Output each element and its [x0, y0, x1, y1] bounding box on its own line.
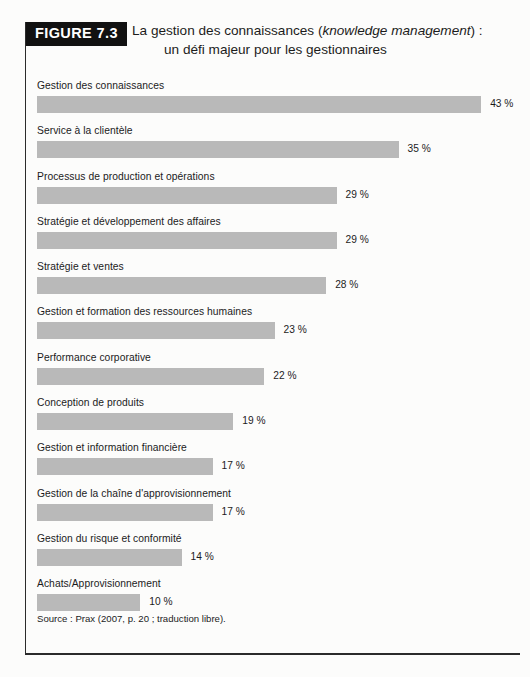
- bar: [37, 187, 337, 204]
- bar-value-label: 17 %: [222, 460, 245, 471]
- bar-label: Service à la clientèle: [37, 125, 503, 137]
- bar-row: Gestion du risque et conformité14 %: [37, 533, 503, 578]
- bar-row: Processus de production et opérations29 …: [37, 171, 503, 216]
- bar-value-label: 14 %: [191, 551, 214, 562]
- bar-track: 17 %: [37, 504, 503, 521]
- bar-track: 35 %: [37, 141, 503, 158]
- bar-track: 29 %: [37, 232, 503, 249]
- figure-title-line1-pre: La gestion des connaissances (: [132, 23, 322, 38]
- bar-value-label: 17 %: [222, 506, 245, 517]
- bar-label: Stratégie et ventes: [37, 261, 503, 273]
- figure-title: La gestion des connaissances (knowledge …: [132, 21, 504, 59]
- bar-row: Gestion et information financière17 %: [37, 442, 503, 487]
- bar: [37, 549, 182, 566]
- bar-value-label: 19 %: [242, 415, 265, 426]
- figure-bottom-rule: [25, 653, 520, 655]
- bar-value-label: 29 %: [346, 234, 369, 245]
- bar-label: Processus de production et opérations: [37, 171, 503, 183]
- bar-label: Gestion des connaissances: [37, 80, 503, 92]
- bar: [37, 322, 275, 339]
- bar: [37, 413, 233, 430]
- bar: [37, 232, 337, 249]
- bar: [37, 96, 481, 113]
- bar-track: 10 %: [37, 594, 503, 611]
- bar-row: Stratégie et ventes28 %: [37, 261, 503, 306]
- figure-title-line1-italic: knowledge management: [322, 23, 470, 38]
- bar: [37, 277, 326, 294]
- bar-value-label: 35 %: [408, 143, 431, 154]
- bar-label: Conception de produits: [37, 397, 503, 409]
- figure-number-badge: FIGURE 7.3: [26, 22, 127, 46]
- bar-row: Gestion des connaissances43 %: [37, 80, 503, 125]
- figure-header: FIGURE 7.3 La gestion des connaissances …: [26, 22, 508, 72]
- bar-value-label: 22 %: [273, 370, 296, 381]
- bar-track: 17 %: [37, 458, 503, 475]
- bar-row: Service à la clientèle35 %: [37, 125, 503, 170]
- bar-track: 22 %: [37, 368, 503, 385]
- bar-track: 19 %: [37, 413, 503, 430]
- bar-track: 43 %: [37, 96, 503, 113]
- bar: [37, 141, 399, 158]
- bar-label: Achats/Approvisionnement: [37, 578, 503, 590]
- bar-chart: Gestion des connaissances43 %Service à l…: [37, 80, 503, 624]
- bar-value-label: 43 %: [490, 98, 513, 109]
- bar-value-label: 28 %: [335, 279, 358, 290]
- bar-row: Conception de produits19 %: [37, 397, 503, 442]
- bar-label: Stratégie et développement des affaires: [37, 216, 503, 228]
- bar: [37, 594, 140, 611]
- figure-title-line1-post: ) :: [471, 23, 483, 38]
- figure-source: Source : Prax (2007, p. 20 ; traduction …: [37, 613, 226, 624]
- bar: [37, 458, 213, 475]
- bar-track: 28 %: [37, 277, 503, 294]
- bar-value-label: 10 %: [149, 596, 172, 607]
- bar-value-label: 29 %: [346, 189, 369, 200]
- bar-row: Gestion de la chaîne d'approvisionnement…: [37, 488, 503, 533]
- bar-label: Gestion de la chaîne d'approvisionnement: [37, 488, 503, 500]
- bar-label: Gestion du risque et conformité: [37, 533, 503, 545]
- bar: [37, 504, 213, 521]
- figure-block: FIGURE 7.3 La gestion des connaissances …: [25, 22, 508, 655]
- bar-track: 29 %: [37, 187, 503, 204]
- bar-row: Performance corporative22 %: [37, 352, 503, 397]
- bar-label: Performance corporative: [37, 352, 503, 364]
- bar-row: Gestion et formation des ressources huma…: [37, 306, 503, 351]
- bar-track: 14 %: [37, 549, 503, 566]
- bar-label: Gestion et formation des ressources huma…: [37, 306, 503, 318]
- figure-title-line2: un défi majeur pour les gestionnaires: [132, 40, 504, 59]
- bar-row: Stratégie et développement des affaires2…: [37, 216, 503, 261]
- bar-track: 23 %: [37, 322, 503, 339]
- bar-value-label: 23 %: [284, 324, 307, 335]
- bar: [37, 368, 264, 385]
- bar-label: Gestion et information financière: [37, 442, 503, 454]
